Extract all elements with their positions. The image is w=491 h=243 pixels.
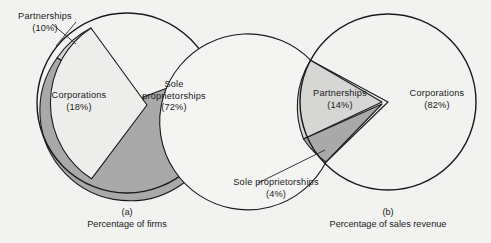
- label-b-corporations: Corporations (82%): [396, 88, 478, 111]
- label-a-sole-name-line2: proprietorships: [142, 91, 206, 101]
- label-a-corporations-pct: (18%): [66, 102, 91, 112]
- label-b-partnerships: Partnerships (14%): [300, 88, 380, 111]
- label-a-corporations: Corporations (18%): [36, 90, 122, 113]
- label-a-sole-pct: (72%): [161, 102, 186, 112]
- label-b-corporations-name: Corporations: [410, 88, 465, 98]
- label-b-corporations-pct: (82%): [424, 100, 449, 110]
- caption-chart-a: (a) Percentage of firms: [57, 206, 197, 230]
- caption-b-letter: (b): [313, 206, 463, 218]
- label-b-sole-pct: (4%): [266, 189, 286, 199]
- figure-page: Partnerships (10%) Corporations (18%) So…: [0, 0, 491, 243]
- label-b-partnerships-pct: (14%): [327, 100, 352, 110]
- caption-b-text: Percentage of sales revenue: [313, 218, 463, 230]
- label-a-partnerships-name: Partnerships: [18, 11, 72, 21]
- label-a-sole-name-line1: Sole: [164, 79, 183, 89]
- caption-chart-b: (b) Percentage of sales revenue: [313, 206, 463, 230]
- label-a-corporations-name: Corporations: [52, 90, 107, 100]
- label-a-partnerships-pct: (10%): [32, 23, 57, 33]
- label-b-sole-name: Sole proprietorships: [233, 177, 318, 187]
- label-b-partnerships-name: Partnerships: [313, 88, 367, 98]
- label-a-partnerships: Partnerships (10%): [2, 11, 88, 34]
- caption-a-letter: (a): [57, 206, 197, 218]
- label-a-sole-proprietorships: Sole proprietorships (72%): [132, 79, 216, 114]
- label-b-sole-proprietorships: Sole proprietorships (4%): [222, 177, 330, 200]
- caption-a-text: Percentage of firms: [57, 218, 197, 230]
